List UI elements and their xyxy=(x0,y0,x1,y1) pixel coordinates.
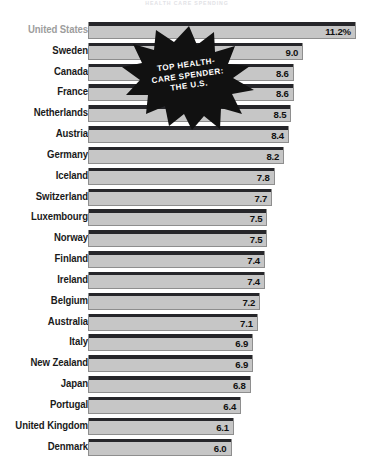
bar-top-shadow xyxy=(89,22,355,26)
bar-category-label: United States xyxy=(0,24,88,35)
bar-value-label: 8.5 xyxy=(274,109,287,120)
bar: 7.5 xyxy=(88,209,267,226)
bar-value-label: 7.8 xyxy=(257,172,270,183)
bar-row: United States11.2% xyxy=(0,22,374,39)
bar-row: Canada8.6 xyxy=(0,64,374,81)
bar: 6.1 xyxy=(88,418,234,435)
bar: 7.4 xyxy=(88,272,265,289)
bar-category-label: Finland xyxy=(0,253,88,264)
bar-top-shadow xyxy=(89,230,266,234)
bar-value-label: 7.7 xyxy=(254,193,267,204)
bar-row: France8.6 xyxy=(0,84,374,101)
bar-category-label: Italy xyxy=(0,336,88,347)
bar-value-label: 7.1 xyxy=(240,318,253,329)
bar-row: Iceland7.8 xyxy=(0,168,374,185)
bar-value-label: 7.5 xyxy=(250,213,263,224)
bar-row: Switzerland7.7 xyxy=(0,189,374,206)
bar: 11.2% xyxy=(88,22,356,39)
bar-value-label: 8.2 xyxy=(266,151,279,162)
bar-row: Luxembourg7.5 xyxy=(0,209,374,226)
bar-top-shadow xyxy=(89,397,240,401)
bar-category-label: Germany xyxy=(0,149,88,160)
bar-row: Austria8.4 xyxy=(0,126,374,143)
bar-value-label: 8.6 xyxy=(276,88,289,99)
bar: 7.1 xyxy=(88,314,258,331)
bar-top-shadow xyxy=(89,251,264,255)
bar-top-shadow xyxy=(89,272,264,276)
bar-category-label: New Zealand xyxy=(0,357,88,368)
bar-value-label: 11.2% xyxy=(325,26,351,37)
chart-plot-area: United States11.2%Sweden9.0Canada8.6Fran… xyxy=(0,0,374,456)
bar-category-label: United Kingdom xyxy=(0,420,88,431)
bar-row: Ireland7.4 xyxy=(0,272,374,289)
bar-top-shadow xyxy=(89,168,274,172)
bar: 7.7 xyxy=(88,189,272,206)
bar: 7.2 xyxy=(88,293,260,310)
bar-category-label: Japan xyxy=(0,378,88,389)
bar-top-shadow xyxy=(89,439,231,443)
bar: 8.6 xyxy=(88,84,294,101)
bar: 6.4 xyxy=(88,397,241,414)
bar-category-label: Norway xyxy=(0,232,88,243)
bar-value-label: 8.4 xyxy=(271,130,284,141)
bar-top-shadow xyxy=(89,209,266,213)
bar: 8.5 xyxy=(88,105,291,122)
bar-value-label: 7.4 xyxy=(247,255,260,266)
bar-row: United Kingdom6.1 xyxy=(0,418,374,435)
bar-top-shadow xyxy=(89,376,250,380)
bar: 6.8 xyxy=(88,376,251,393)
bar: 8.2 xyxy=(88,147,284,164)
bar-category-label: Belgium xyxy=(0,295,88,306)
bar: 7.8 xyxy=(88,168,275,185)
bar-value-label: 6.0 xyxy=(214,443,227,454)
bar-value-label: 9.0 xyxy=(286,47,299,58)
bar-row: Belgium7.2 xyxy=(0,293,374,310)
bar-top-shadow xyxy=(89,314,257,318)
bar-top-shadow xyxy=(89,126,288,130)
bar: 6.9 xyxy=(88,355,253,372)
bar-category-label: Sweden xyxy=(0,45,88,56)
bar-value-label: 8.6 xyxy=(276,68,289,79)
bar-value-label: 7.4 xyxy=(247,276,260,287)
bar-category-label: Switzerland xyxy=(0,191,88,202)
bar: 9.0 xyxy=(88,43,303,60)
bar: 6.9 xyxy=(88,334,253,351)
bar-category-label: France xyxy=(0,86,88,97)
bar-category-label: Austria xyxy=(0,128,88,139)
bar-row: Norway7.5 xyxy=(0,230,374,247)
bar-top-shadow xyxy=(89,105,290,109)
bar-value-label: 6.9 xyxy=(235,359,248,370)
bar-category-label: Luxembourg xyxy=(0,211,88,222)
bar-category-label: Iceland xyxy=(0,170,88,181)
bar-top-shadow xyxy=(89,84,293,88)
bar-row: Australia7.1 xyxy=(0,314,374,331)
bar-row: Germany8.2 xyxy=(0,147,374,164)
bar-top-shadow xyxy=(89,293,259,297)
bar-value-label: 6.9 xyxy=(235,338,248,349)
bar: 7.5 xyxy=(88,230,267,247)
bar-top-shadow xyxy=(89,43,302,47)
bar-row: Portugal6.4 xyxy=(0,397,374,414)
bar-top-shadow xyxy=(89,334,252,338)
bar-category-label: Canada xyxy=(0,66,88,77)
bar-category-label: Australia xyxy=(0,316,88,327)
bar-value-label: 7.2 xyxy=(242,297,255,308)
bar-top-shadow xyxy=(89,355,252,359)
bar-top-shadow xyxy=(89,64,293,68)
bar: 8.4 xyxy=(88,126,289,143)
bar-row: Japan6.8 xyxy=(0,376,374,393)
bar: 8.6 xyxy=(88,64,294,81)
bar-row: Netherlands8.5 xyxy=(0,105,374,122)
bar-value-label: 6.8 xyxy=(233,380,246,391)
bar: 6.0 xyxy=(88,439,232,456)
bar-row: Denmark6.0 xyxy=(0,439,374,456)
health-care-spending-chart: HEALTH CARE SPENDING United States11.2%S… xyxy=(0,0,374,456)
bar-row: Sweden9.0 xyxy=(0,43,374,60)
bar-top-shadow xyxy=(89,418,233,422)
bar-category-label: Portugal xyxy=(0,399,88,410)
bar-category-label: Ireland xyxy=(0,274,88,285)
bar-top-shadow xyxy=(89,147,283,151)
bar: 7.4 xyxy=(88,251,265,268)
bar-category-label: Denmark xyxy=(0,441,88,452)
bar-row: New Zealand6.9 xyxy=(0,355,374,372)
